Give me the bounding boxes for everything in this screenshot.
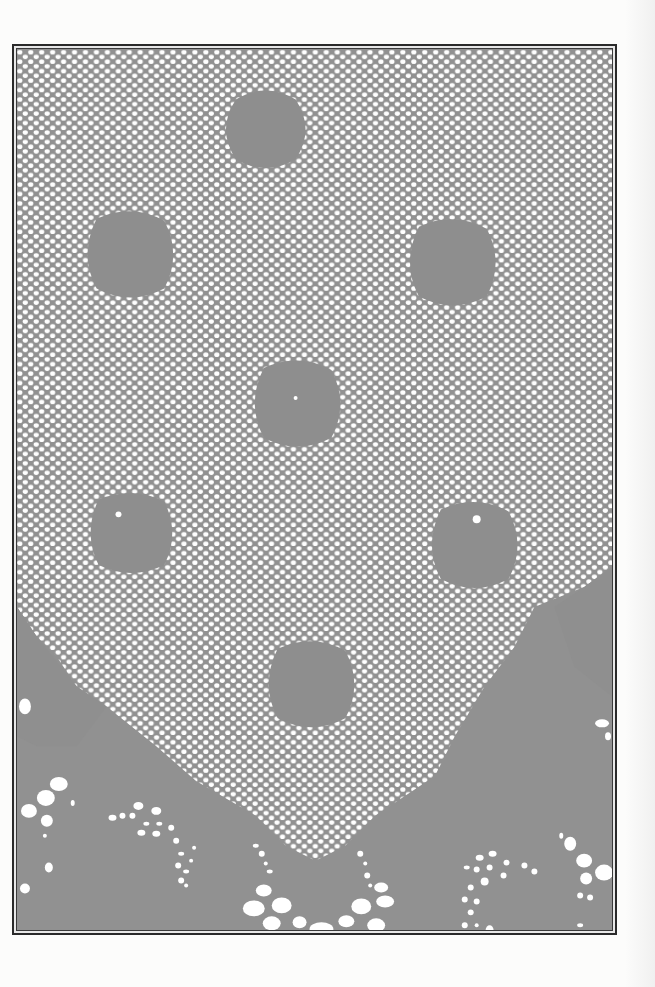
lace-panel [16, 48, 613, 931]
page-edge-shadow [625, 0, 655, 987]
double-line-frame [12, 44, 617, 935]
lace-mesh-illustration [17, 49, 612, 930]
scanned-page [0, 0, 655, 987]
